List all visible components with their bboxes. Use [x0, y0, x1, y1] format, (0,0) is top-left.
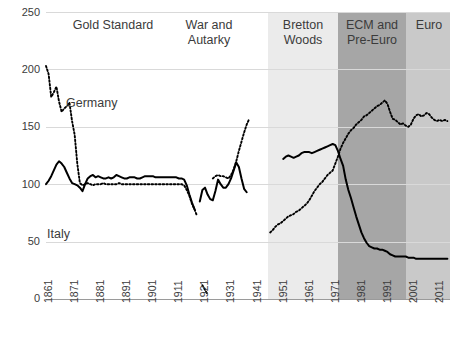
x-tick-1921: 1921 [198, 280, 210, 303]
x-tick-1881: 1881 [94, 280, 106, 303]
x-tick-1981: 1981 [355, 280, 367, 303]
x-tick-1941: 1941 [251, 280, 263, 303]
plot-area: Germany Italy [46, 12, 450, 299]
y-tick-0: 0 [12, 292, 40, 304]
series-lines [46, 12, 450, 299]
era-label-bretton-line1: Bretton [268, 18, 338, 33]
x-tick-1991: 1991 [381, 280, 393, 303]
era-label-gold-standard: Gold Standard [48, 18, 178, 33]
x-tick-1931: 1931 [224, 280, 236, 303]
x-tick-1971: 1971 [329, 280, 341, 303]
x-tick-2001: 2001 [407, 280, 419, 303]
series-label-germany: Germany [66, 96, 117, 110]
era-label-ecm-line1: ECM and [338, 18, 406, 33]
chart-root: 250 200 150 100 50 0 Germany Italy Gold … [0, 0, 464, 337]
x-tick-1871: 1871 [68, 280, 80, 303]
era-label-war-line1: War and [178, 18, 240, 33]
y-tick-100: 100 [12, 178, 40, 190]
era-label-euro: Euro [406, 18, 452, 33]
x-tick-1961: 1961 [303, 280, 315, 303]
y-tick-200: 200 [12, 63, 40, 75]
era-label-ecm-line2: Pre-Euro [338, 33, 406, 48]
x-tick-1951: 1951 [277, 280, 289, 303]
x-tick-1911: 1911 [172, 280, 184, 303]
x-tick-2011: 2011 [433, 280, 445, 303]
era-label-bretton-line2: Woods [268, 33, 338, 48]
x-tick-1861: 1861 [42, 280, 54, 303]
y-tick-250: 250 [12, 6, 40, 18]
x-tick-1901: 1901 [146, 280, 158, 303]
x-tick-1891: 1891 [120, 280, 132, 303]
series-label-italy: Italy [47, 227, 70, 241]
y-tick-50: 50 [12, 235, 40, 247]
y-tick-150: 150 [12, 120, 40, 132]
era-label-war-line2: Autarky [178, 33, 240, 48]
